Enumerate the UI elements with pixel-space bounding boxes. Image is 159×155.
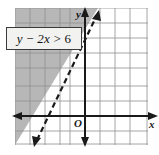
callout-y: y: [17, 31, 23, 47]
inequality-callout-label: y − 2x > 6: [6, 27, 82, 50]
callout-term: 2x: [37, 31, 50, 47]
callout-minus: −: [26, 31, 34, 47]
graph-canvas: [0, 0, 159, 155]
callout-relation: >: [53, 31, 61, 47]
x-axis-label: x: [149, 118, 155, 130]
y-axis-label: y: [76, 8, 81, 20]
callout-rhs: 6: [64, 31, 71, 47]
inequality-graph-figure: y − 2x > 6 y x O: [0, 0, 159, 155]
origin-label: O: [74, 117, 82, 129]
